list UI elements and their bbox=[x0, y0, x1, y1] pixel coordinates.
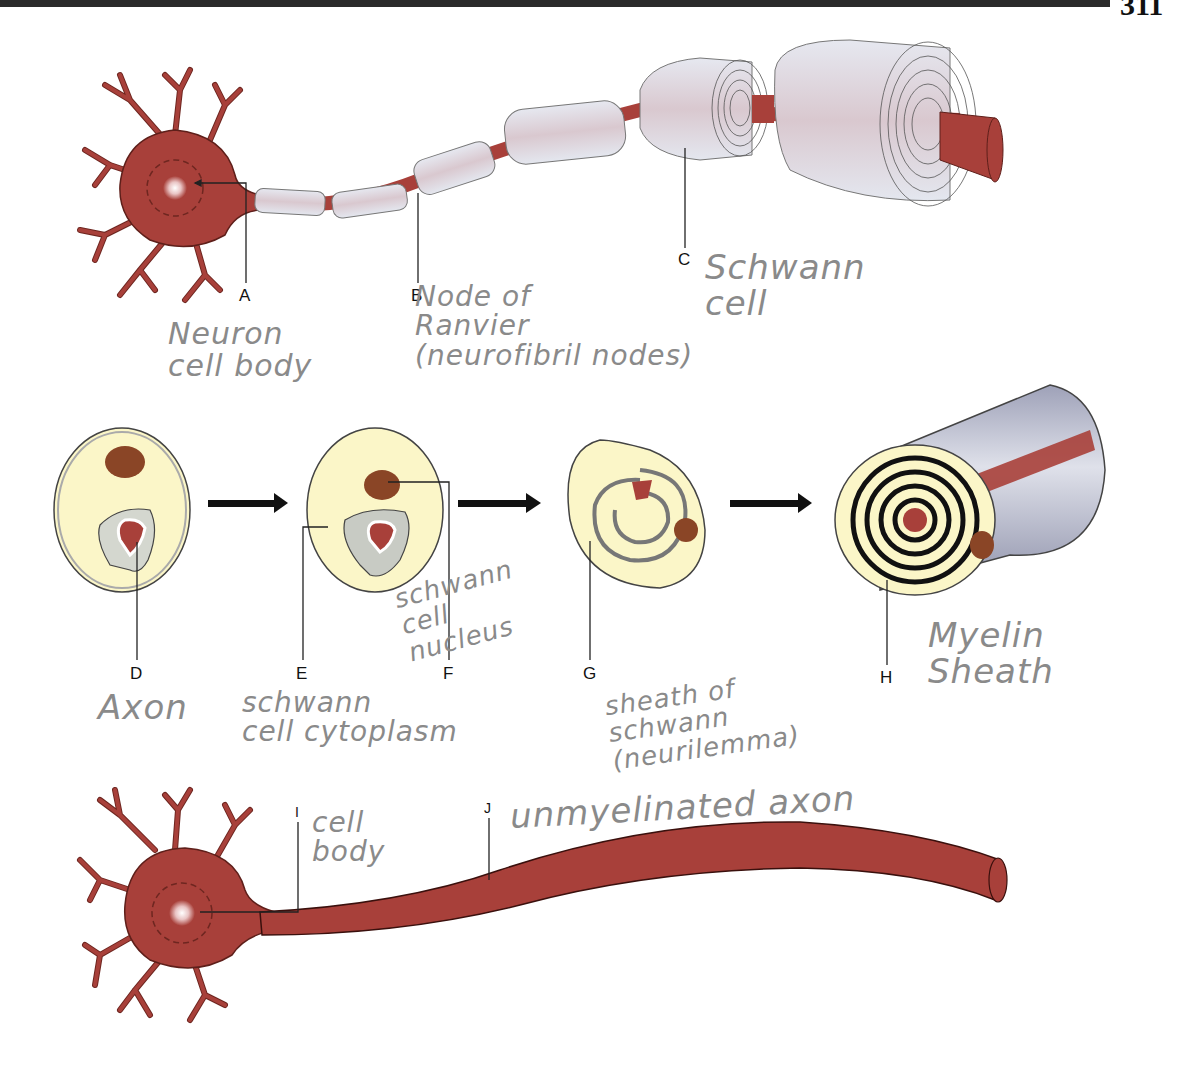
stage-4-myelinated-axon bbox=[835, 385, 1105, 595]
answer-e: schwann cell cytoplasm bbox=[242, 688, 458, 747]
neuron-diagram bbox=[0, 0, 1181, 1089]
label-e: E bbox=[296, 664, 307, 684]
stage-1 bbox=[54, 428, 190, 592]
arrow-icons bbox=[208, 493, 812, 513]
stage-3 bbox=[568, 440, 705, 588]
label-i: I bbox=[295, 804, 299, 820]
label-a: A bbox=[239, 286, 250, 306]
answer-d: Axon bbox=[98, 690, 188, 726]
answer-b: Node of Ranvier (neurofibril nodes) bbox=[415, 282, 693, 370]
stage-2 bbox=[307, 428, 443, 592]
label-j: J bbox=[484, 800, 491, 816]
answer-a: Neuron cell body bbox=[168, 318, 312, 381]
label-g: G bbox=[583, 664, 596, 684]
label-h: H bbox=[880, 668, 892, 688]
answer-i: cell body bbox=[312, 808, 385, 867]
answer-c: Schwann cell bbox=[705, 250, 866, 321]
answer-h: Myelin Sheath bbox=[928, 618, 1054, 689]
label-d: D bbox=[130, 664, 142, 684]
label-f: F bbox=[443, 664, 453, 684]
label-c: C bbox=[678, 250, 690, 270]
